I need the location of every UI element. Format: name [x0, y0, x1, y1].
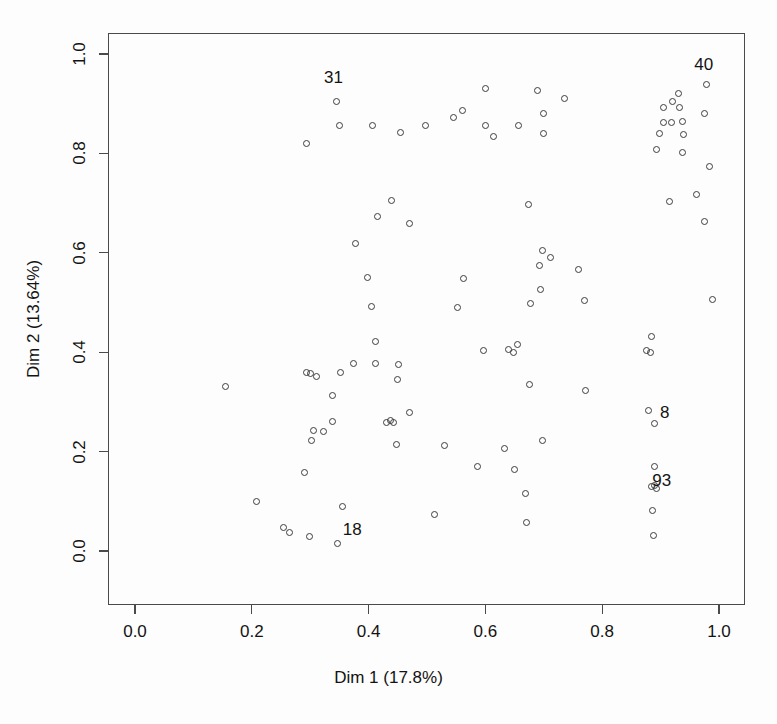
x-axis-tick-label: 0.2 — [240, 622, 264, 642]
x-axis-title: Dim 1 (17.8%) — [0, 668, 777, 688]
y-axis-tick — [99, 252, 108, 253]
x-axis-tick-label: 0.4 — [357, 622, 381, 642]
y-axis-tick-label: 0.0 — [70, 539, 90, 563]
y-axis-tick — [99, 550, 108, 551]
y-axis-tick-label: 0.2 — [70, 440, 90, 464]
x-axis-tick — [368, 605, 369, 614]
x-axis-tick-label: 0.8 — [590, 622, 614, 642]
x-axis-tick — [602, 605, 603, 614]
x-axis-tick — [251, 605, 252, 614]
x-axis-tick — [485, 605, 486, 614]
y-axis-title: Dim 2 (13.64%) — [24, 260, 44, 378]
x-axis-tick-label: 0.6 — [474, 622, 498, 642]
x-axis-tick — [134, 605, 135, 614]
x-axis-tick-label: 1.0 — [707, 622, 731, 642]
plot-frame — [108, 33, 745, 605]
x-axis-tick-label: 0.0 — [123, 622, 147, 642]
x-axis-tick — [718, 605, 719, 614]
y-axis-tick — [99, 352, 108, 353]
y-axis-tick-label: 0.8 — [70, 142, 90, 166]
y-axis-tick-label: 0.6 — [70, 241, 90, 265]
y-axis-tick — [99, 53, 108, 54]
y-axis-tick-label: 0.4 — [70, 340, 90, 364]
y-axis-tick — [99, 451, 108, 452]
y-axis-tick-label: 1.0 — [70, 42, 90, 66]
scatter-plot-figure: 0.00.20.40.60.81.00.00.20.40.60.81.0 314… — [0, 0, 777, 724]
y-axis-tick — [99, 153, 108, 154]
